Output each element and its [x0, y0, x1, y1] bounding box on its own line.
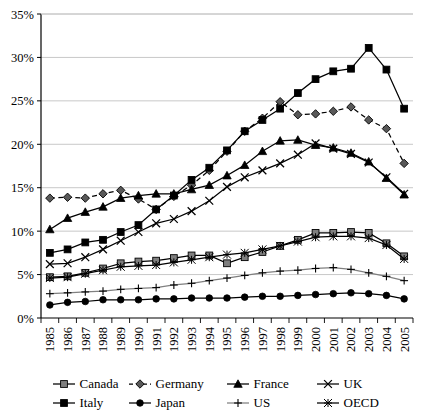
marker-triangle [46, 225, 54, 233]
square-marker [46, 249, 53, 256]
x-tick-label-1997: 1997 [256, 327, 270, 352]
marker-diamond [294, 111, 302, 119]
triangle-marker [46, 225, 54, 233]
marker-circle [277, 293, 284, 300]
marker-asterisk [81, 270, 89, 278]
circle-marker [330, 290, 337, 297]
germany-marker-icon [127, 377, 153, 391]
marker-plus [81, 288, 89, 296]
triangle-marker [223, 171, 231, 179]
marker-circle [64, 299, 71, 306]
marker-plus [223, 274, 231, 282]
marker-square [135, 222, 142, 229]
marker-diamond [329, 107, 337, 115]
circle-marker [47, 302, 54, 309]
square-marker [383, 66, 390, 73]
marker-diamond [81, 194, 89, 202]
marker-square [64, 246, 71, 253]
marker-circle [171, 296, 178, 303]
marker-asterisk [258, 245, 266, 253]
marker-asterisk [400, 255, 408, 263]
x-tick-label-2002: 2002 [344, 327, 358, 352]
marker-asterisk [188, 256, 196, 264]
circle-marker [135, 296, 142, 303]
x-tick-label-1986: 1986 [61, 327, 75, 352]
marker-cross-x [170, 215, 178, 223]
legend-item-oecd: OECD [315, 396, 371, 410]
circle-marker [82, 298, 89, 305]
marker-asterisk [365, 234, 373, 242]
marker-cross-x [259, 166, 267, 174]
diamond-marker [294, 111, 302, 119]
legend-label-us: US [251, 396, 271, 410]
square-marker [312, 76, 319, 83]
marker-plus [312, 265, 320, 273]
triangle-marker [99, 203, 107, 211]
marker-plus [234, 399, 242, 407]
marker-cross-x [188, 207, 196, 215]
x-tick-label-1985: 1985 [43, 327, 57, 352]
marker-diamond [365, 116, 373, 124]
marker-square [241, 128, 248, 135]
marker-square [170, 192, 177, 199]
marker-square [224, 260, 231, 267]
marker-cross-x [135, 228, 143, 236]
y-tick-label-35: 35% [11, 8, 34, 22]
marker-asterisk [134, 262, 142, 270]
marker-plus [170, 281, 178, 289]
marker-circle [295, 292, 302, 299]
y-tick-label-20: 20% [11, 138, 34, 152]
y-tick-label-30: 30% [11, 51, 34, 65]
marker-diamond [311, 110, 319, 118]
circle-marker [241, 294, 248, 301]
marker-asterisk [99, 266, 107, 274]
marker-triangle [258, 147, 266, 155]
circle-marker [153, 296, 160, 303]
y-tick-label-5: 5% [17, 268, 34, 282]
legend-label-uk: UK [341, 377, 363, 391]
x-axis: 1985198619871988198919901991199219931994… [41, 318, 413, 352]
marker-plus [365, 269, 373, 277]
x-tick-label-1992: 1992 [167, 327, 181, 352]
marker-asterisk [347, 232, 355, 240]
legend-item-france: France [225, 377, 301, 391]
square-marker [117, 229, 124, 236]
marker-triangle [205, 181, 213, 189]
legend-row-2: Italy Japan US OECD [44, 393, 378, 412]
marker-square [46, 249, 53, 256]
x-tick-label-2003: 2003 [362, 327, 376, 352]
marker-circle [348, 290, 355, 297]
japan-marker-icon [127, 396, 153, 410]
x-tick-label-1995: 1995 [220, 327, 234, 352]
x-tick-label-1998: 1998 [274, 327, 288, 352]
marker-plus [46, 290, 54, 298]
circle-marker [401, 296, 408, 303]
square-marker [153, 206, 160, 213]
legend-label-germany: Germany [153, 377, 204, 391]
marker-cross-x [205, 197, 213, 205]
legend-item-italy: Italy [51, 396, 113, 410]
marker-asterisk [241, 249, 249, 257]
marker-diamond [46, 194, 54, 202]
y-axis: 0%5%10%15%20%25%30%35% [11, 8, 41, 326]
marker-diamond [400, 159, 408, 167]
diamond-marker [311, 110, 319, 118]
marker-circle [135, 296, 142, 303]
diamond-marker [63, 193, 71, 201]
legend-item-us: US [225, 396, 301, 410]
marker-plus [383, 272, 391, 280]
marker-circle [153, 296, 160, 303]
square-marker [401, 105, 408, 112]
marker-cross-x [152, 219, 160, 227]
square-marker [365, 44, 372, 51]
diamond-marker [365, 116, 373, 124]
circle-marker [117, 296, 124, 303]
diamond-marker [329, 107, 337, 115]
italy-marker-icon [51, 396, 77, 410]
circle-marker [383, 292, 390, 299]
marker-square [401, 105, 408, 112]
marker-circle [224, 295, 231, 302]
marker-asterisk [205, 253, 213, 261]
legend-label-france: France [251, 377, 289, 391]
marker-asterisk [46, 274, 54, 282]
